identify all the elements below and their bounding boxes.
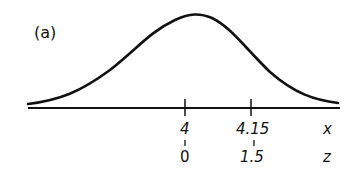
- z-axis-label: z: [323, 150, 331, 165]
- x-axis-label: x: [323, 122, 332, 137]
- z-tick-label-4-15: 1.5: [240, 150, 264, 165]
- bell-curve: [28, 14, 338, 104]
- x-tick-label-mean: 4: [180, 122, 190, 137]
- panel-label: (a): [34, 25, 56, 41]
- z-tick-label-mean: 0: [180, 150, 190, 165]
- x-tick-label-4-15: 4.15: [236, 122, 269, 137]
